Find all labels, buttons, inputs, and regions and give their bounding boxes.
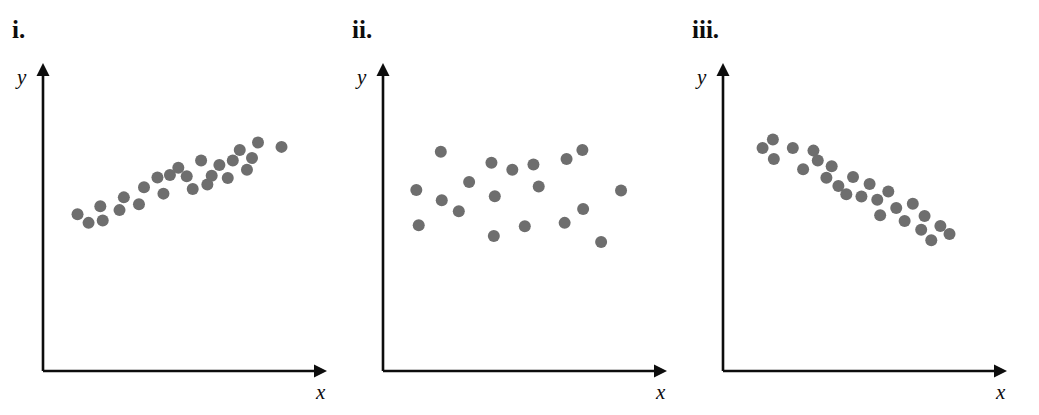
panel-iii: iii.yx	[680, 0, 1026, 415]
panel-ii-canvas: ii.yx	[340, 0, 686, 415]
data-point	[527, 159, 539, 171]
data-point	[138, 181, 150, 193]
data-point	[133, 198, 145, 210]
data-point	[944, 228, 956, 240]
panel-ii-label: ii.	[352, 16, 372, 43]
panel-iii-points-group	[757, 134, 956, 247]
data-point	[489, 190, 501, 202]
data-point	[241, 164, 253, 176]
panel-ii-points-group	[410, 144, 627, 248]
data-point	[488, 230, 500, 242]
data-point	[533, 180, 545, 192]
data-point	[559, 217, 571, 229]
data-point	[276, 141, 288, 153]
data-point	[934, 220, 946, 232]
data-point	[157, 188, 169, 200]
data-point	[907, 198, 919, 210]
data-point	[114, 204, 126, 216]
data-point	[181, 170, 193, 182]
data-point	[195, 154, 207, 166]
scatter-plot-figure: i.yxii.yxiii.yx	[0, 0, 1039, 415]
data-point	[561, 153, 573, 165]
panel-ii-x-axis-arrowhead	[654, 365, 667, 378]
data-point	[577, 203, 589, 215]
panel-ii-y-axis-label: y	[355, 65, 367, 89]
data-point	[899, 215, 911, 227]
panel-iii-label: iii.	[692, 16, 719, 43]
panel-iii-x-axis-label: x	[995, 380, 1006, 404]
data-point	[222, 172, 234, 184]
data-point	[882, 186, 894, 198]
data-point	[227, 154, 239, 166]
panel-i: i.yx	[0, 0, 346, 415]
data-point	[787, 142, 799, 154]
data-point	[410, 184, 422, 196]
data-point	[118, 191, 130, 203]
data-point	[797, 163, 809, 175]
data-point	[847, 171, 859, 183]
data-point	[206, 170, 218, 182]
data-point	[864, 178, 876, 190]
data-point	[413, 219, 425, 231]
data-point	[757, 142, 769, 154]
data-point	[595, 236, 607, 248]
panel-ii: ii.yx	[340, 0, 686, 415]
data-point	[435, 146, 447, 158]
data-point	[246, 152, 258, 164]
panel-iii-x-axis-arrowhead	[994, 365, 1007, 378]
panel-iii-canvas: iii.yx	[680, 0, 1026, 415]
data-point	[213, 159, 225, 171]
data-point	[890, 202, 902, 214]
data-point	[519, 220, 531, 232]
data-point	[767, 134, 779, 146]
data-point	[826, 160, 838, 172]
data-point	[97, 214, 109, 226]
panel-i-canvas: i.yx	[0, 0, 346, 415]
data-point	[463, 176, 475, 188]
data-point	[187, 183, 199, 195]
data-point	[94, 200, 106, 212]
panel-iii-y-axis-label: y	[695, 65, 707, 89]
data-point	[768, 153, 780, 165]
data-point	[83, 217, 95, 229]
data-point	[252, 136, 264, 148]
data-point	[453, 205, 465, 217]
data-point	[820, 172, 832, 184]
panel-ii-x-axis-label: x	[655, 380, 666, 404]
data-point	[855, 191, 867, 203]
panel-i-label: i.	[12, 16, 25, 43]
data-point	[485, 157, 497, 169]
data-point	[151, 171, 163, 183]
panel-i-x-axis-arrowhead	[314, 365, 327, 378]
panel-i-x-axis-label: x	[315, 380, 326, 404]
panel-ii-y-axis-arrowhead	[377, 63, 390, 76]
panel-iii-y-axis-arrowhead	[717, 63, 730, 76]
panel-i-y-axis-arrowhead	[37, 63, 50, 76]
data-point	[874, 209, 886, 221]
data-point	[436, 194, 448, 206]
data-point	[812, 154, 824, 166]
data-point	[919, 210, 931, 222]
data-point	[871, 194, 883, 206]
data-point	[576, 144, 588, 156]
panel-i-points-group	[72, 136, 288, 228]
data-point	[234, 144, 246, 156]
data-point	[840, 188, 852, 200]
data-point	[172, 162, 184, 174]
data-point	[506, 164, 518, 176]
data-point	[72, 208, 84, 220]
panel-i-y-axis-label: y	[15, 65, 27, 89]
data-point	[925, 234, 937, 246]
data-point	[615, 184, 627, 196]
data-point	[915, 224, 927, 236]
